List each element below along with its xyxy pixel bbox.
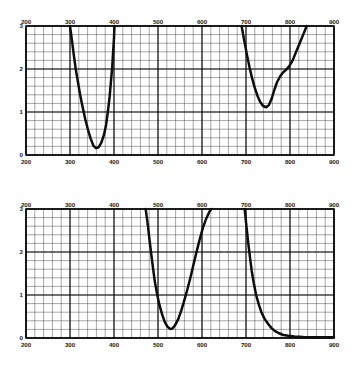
xtick-label-top: 800	[285, 201, 296, 208]
xtick-label-top: 300	[65, 18, 76, 25]
xtick-label-bottom: 800	[285, 158, 296, 165]
xtick-label-top: 300	[65, 201, 76, 208]
xtick-label-top: 900	[329, 201, 340, 208]
xtick-label-bottom: 400	[109, 158, 120, 165]
xtick-label-bottom: 700	[241, 158, 252, 165]
ytick-label: 3	[20, 22, 24, 29]
xtick-label-top: 500	[153, 18, 164, 25]
xtick-label-top: 900	[329, 18, 340, 25]
xtick-label-bottom: 600	[197, 341, 208, 348]
ytick-label: 1	[20, 291, 24, 298]
xtick-label-bottom: 200	[21, 158, 32, 165]
ytick-label: 3	[20, 205, 24, 212]
major-gridlines	[26, 209, 334, 338]
ytick-label: 1	[20, 108, 24, 115]
xtick-label-top: 400	[109, 201, 120, 208]
xtick-label-bottom: 500	[153, 158, 164, 165]
xtick-label-top: 500	[153, 201, 164, 208]
ytick-label: 2	[20, 248, 24, 255]
data-curve-band-1	[70, 26, 114, 148]
ytick-label: 2	[20, 65, 24, 72]
xtick-label-top: 800	[285, 18, 296, 25]
plot-frame	[26, 209, 334, 338]
xtick-label-bottom: 300	[65, 341, 76, 348]
chart-panel-top: 2002003003004004005005006006007007008008…	[0, 0, 354, 185]
xtick-label-bottom: 600	[197, 158, 208, 165]
xtick-label-bottom: 500	[153, 341, 164, 348]
xtick-label-top: 400	[109, 18, 120, 25]
ytick-label: 0	[20, 151, 24, 158]
xtick-label-bottom: 300	[65, 158, 76, 165]
xtick-label-top: 700	[241, 18, 252, 25]
xtick-label-bottom: 400	[109, 341, 120, 348]
xtick-label-bottom: 900	[329, 341, 340, 348]
chart-panel-bottom: 2002003003004004005005006006007007008008…	[0, 185, 354, 369]
xtick-label-top: 700	[241, 201, 252, 208]
xtick-label-top: 600	[197, 201, 208, 208]
xtick-label-bottom: 800	[285, 341, 296, 348]
minor-gridlines	[26, 209, 334, 338]
data-curve-band-2	[242, 26, 307, 107]
chart-top-svg: 2002003003004004005005006006007007008008…	[0, 0, 354, 185]
ytick-label: 0	[20, 334, 24, 341]
xtick-label-bottom: 700	[241, 341, 252, 348]
xtick-label-top: 600	[197, 18, 208, 25]
xtick-label-bottom: 200	[21, 341, 32, 348]
chart-bottom-svg: 2002003003004004005005006006007007008008…	[0, 185, 354, 369]
xtick-label-bottom: 900	[329, 158, 340, 165]
data-curve-band-2	[245, 209, 334, 337]
figure-root: 2002003003004004005005006006007007008008…	[0, 0, 354, 369]
